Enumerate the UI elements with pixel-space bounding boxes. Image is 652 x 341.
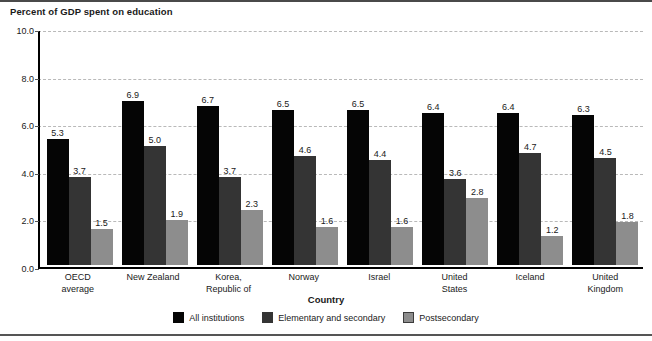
bar-slot: 6.7 [197, 31, 219, 265]
y-axis-tick-label: 4.0 [0, 169, 34, 179]
category-label-line: Iceland [492, 272, 567, 284]
plot-axes: 5.33.71.56.95.01.96.73.72.36.54.61.66.54… [38, 31, 643, 269]
x-axis-category-label: New Zealand [115, 272, 190, 295]
bar-slot: 4.6 [294, 31, 316, 265]
legend-label: Elementary and secondary [278, 313, 385, 323]
y-axis-tick-label: 2.0 [0, 216, 34, 226]
x-axis-category-label: UnitedStates [417, 272, 492, 295]
category-label-line: United [417, 272, 492, 284]
legend-item[interactable]: All institutions [173, 312, 244, 323]
legend-label: All institutions [189, 313, 244, 323]
y-axis-tick-mark [35, 31, 39, 32]
bar-slot: 2.3 [241, 31, 263, 265]
legend-label: Postsecondary [419, 313, 479, 323]
y-axis-tick-mark [35, 269, 39, 270]
plot-area: 5.33.71.56.95.01.96.73.72.36.54.61.66.54… [38, 31, 643, 269]
bar[interactable] [594, 158, 616, 265]
bar-slot: 3.7 [219, 31, 241, 265]
category-label-line: New Zealand [115, 272, 190, 284]
category-label-line: OECD [40, 272, 115, 284]
bar-slot: 2.8 [466, 31, 488, 265]
bar[interactable] [541, 236, 563, 265]
bar-group: 6.54.61.6 [267, 31, 342, 265]
category-label-line: United [568, 272, 643, 284]
bar-slot: 4.4 [369, 31, 391, 265]
bar-slot: 6.4 [422, 31, 444, 265]
chart-title: Percent of GDP spent on education [10, 6, 173, 17]
bar[interactable] [316, 227, 338, 265]
bar[interactable] [219, 177, 241, 265]
bar[interactable] [572, 115, 594, 265]
category-label-line: Norway [266, 272, 341, 284]
bar-slot: 5.3 [47, 31, 69, 265]
bar-group: 5.33.71.5 [42, 31, 117, 265]
bar-groups: 5.33.71.56.95.01.96.73.72.36.54.61.66.54… [42, 31, 643, 265]
bar[interactable] [166, 220, 188, 265]
bar-slot: 1.6 [391, 31, 413, 265]
bar-group: 6.95.01.9 [117, 31, 192, 265]
bar[interactable] [497, 113, 519, 265]
x-axis-category-label: Norway [266, 272, 341, 295]
legend-swatch [173, 312, 184, 323]
bar-group: 6.43.62.8 [418, 31, 493, 265]
bar-slot: 6.9 [122, 31, 144, 265]
x-axis-category-label: Israel [342, 272, 417, 295]
bar-group: 6.34.51.8 [568, 31, 643, 265]
bar-slot: 3.7 [69, 31, 91, 265]
bar[interactable] [444, 179, 466, 265]
y-axis-tick-mark [35, 174, 39, 175]
legend-item[interactable]: Elementary and secondary [262, 312, 385, 323]
y-axis-tick-label: 10.0 [0, 26, 34, 36]
bar-slot: 3.6 [444, 31, 466, 265]
bar[interactable] [369, 160, 391, 265]
y-axis-tick-label: 0.0 [0, 264, 34, 274]
x-axis-category-label: Korea,Republic of [191, 272, 266, 295]
bar-slot: 1.8 [616, 31, 638, 265]
category-label-line: Israel [342, 272, 417, 284]
chart-legend: All institutionsElementary and secondary… [0, 312, 652, 323]
bottom-divider [0, 334, 652, 336]
bar[interactable] [347, 110, 369, 265]
category-label-line: Korea, [191, 272, 266, 284]
bar[interactable] [47, 139, 69, 265]
bar-slot: 1.5 [91, 31, 113, 265]
bar[interactable] [616, 222, 638, 265]
bar-slot: 1.9 [166, 31, 188, 265]
x-axis-category-label: OECDaverage [40, 272, 115, 295]
bar[interactable] [466, 198, 488, 265]
bar[interactable] [241, 210, 263, 265]
x-axis-category-label: UnitedKingdom [568, 272, 643, 295]
legend-item[interactable]: Postsecondary [403, 312, 479, 323]
x-axis-category-label: Iceland [492, 272, 567, 295]
bar[interactable] [519, 153, 541, 265]
bar-group: 6.44.71.2 [493, 31, 568, 265]
bar[interactable] [391, 227, 413, 265]
y-axis-tick-mark [35, 79, 39, 80]
bar-slot: 4.7 [519, 31, 541, 265]
bar-slot: 5.0 [144, 31, 166, 265]
bar-slot: 6.4 [497, 31, 519, 265]
bar-slot: 6.3 [572, 31, 594, 265]
y-axis-tick-label: 6.0 [0, 121, 34, 131]
legend-swatch [403, 312, 414, 323]
bar-slot: 6.5 [272, 31, 294, 265]
bar[interactable] [294, 156, 316, 265]
bar[interactable] [69, 177, 91, 265]
bar[interactable] [197, 106, 219, 265]
chart-figure: Percent of GDP spent on education 5.33.7… [0, 0, 652, 341]
x-axis-category-labels: OECDaverageNew ZealandKorea,Republic ofN… [40, 272, 643, 295]
y-axis-tick-label: 8.0 [0, 74, 34, 84]
y-axis-tick-mark [35, 126, 39, 127]
bar-slot: 1.6 [316, 31, 338, 265]
legend-swatch [262, 312, 273, 323]
bar[interactable] [122, 101, 144, 265]
x-axis-title: Country [0, 294, 652, 305]
bar[interactable] [144, 146, 166, 265]
bar-group: 6.73.72.3 [192, 31, 267, 265]
bar-slot: 1.2 [541, 31, 563, 265]
y-axis-tick-mark [35, 221, 39, 222]
bar[interactable] [272, 110, 294, 265]
bar[interactable] [91, 229, 113, 265]
bar-group: 6.54.41.6 [343, 31, 418, 265]
bar[interactable] [422, 113, 444, 265]
